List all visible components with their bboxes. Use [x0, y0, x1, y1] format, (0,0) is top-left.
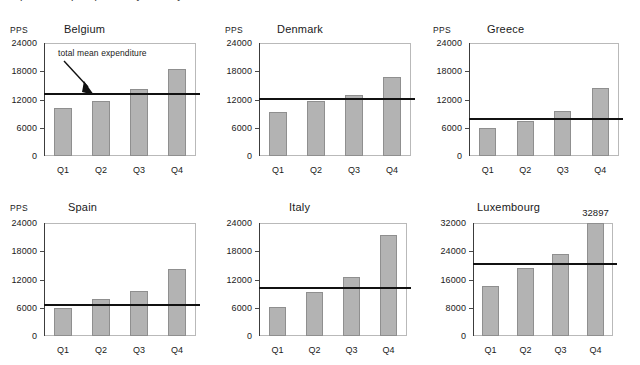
x-axis-tick-label: Q3	[345, 345, 357, 355]
y-axis-tick	[255, 280, 259, 281]
x-axis-tick-label: Q4	[589, 345, 601, 355]
x-axis-tick-label: Q2	[519, 165, 531, 175]
y-axis-tick	[255, 308, 259, 309]
bar	[168, 269, 185, 336]
y-axis-line	[473, 223, 474, 336]
bar	[479, 128, 496, 156]
y-axis-tick	[40, 280, 44, 281]
x-axis-tick-label: Q1	[272, 165, 284, 175]
y-axis-tick	[465, 100, 469, 101]
mean-expenditure-line	[259, 287, 411, 289]
y-axis-tick-label: 24000	[436, 38, 462, 48]
x-axis-tick-label: Q4	[382, 345, 394, 355]
y-axis-tick	[40, 128, 44, 129]
y-axis-tick-label: 0	[247, 331, 252, 341]
y-axis-tick-label: 32000	[440, 218, 466, 228]
y-axis-tick-label: 24000	[226, 38, 252, 48]
panel-belgium: PPSBelgium06000120001800024000Q1Q2Q3Q4to…	[0, 9, 215, 185]
y-axis-unit-label: PPS	[10, 203, 28, 213]
bar-data-label: 32897	[582, 207, 608, 218]
mean-expenditure-line	[259, 98, 415, 100]
bar	[482, 286, 498, 336]
bar	[307, 101, 324, 156]
bar	[54, 108, 71, 156]
bar	[269, 307, 286, 336]
y-axis-tick-label: 6000	[232, 303, 252, 313]
x-axis-tick-label: Q4	[171, 345, 183, 355]
mean-expenditure-line	[473, 263, 617, 265]
bar	[383, 77, 400, 156]
bar	[380, 235, 397, 336]
y-axis-tick-label: 16000	[440, 275, 466, 285]
y-axis-tick	[255, 71, 259, 72]
mean-expenditure-line	[469, 118, 623, 120]
y-axis-tick	[255, 100, 259, 101]
mean-line-annotation-arrow	[62, 59, 122, 103]
y-axis-tick-label: 18000	[11, 66, 37, 76]
y-axis-tick	[469, 280, 473, 281]
panel-title: Spain	[68, 201, 97, 213]
panel-title: Denmark	[277, 23, 323, 35]
bar	[168, 69, 185, 156]
bar	[306, 292, 323, 336]
y-axis-tick-label: 18000	[226, 246, 252, 256]
y-axis-tick-label: 0	[457, 151, 462, 161]
y-axis-unit-label: PPS	[10, 25, 28, 35]
x-axis-tick-label: Q2	[308, 345, 320, 355]
bar	[517, 268, 533, 337]
panel-spain: PPSSpain06000120001800024000Q1Q2Q3Q4	[0, 185, 215, 365]
y-axis-tick	[469, 308, 473, 309]
small-multiples-grid: PPSBelgium06000120001800024000Q1Q2Q3Q4to…	[0, 9, 640, 365]
bar	[54, 308, 71, 336]
y-axis-tick-label: 0	[32, 151, 37, 161]
y-axis-tick	[255, 251, 259, 252]
y-axis-line	[44, 43, 45, 156]
plot-area: 06000120001800024000Q1Q2Q3Q4total mean e…	[44, 43, 196, 156]
y-axis-line	[259, 223, 260, 336]
plot-area: 06000120001800024000Q1Q2Q3Q4	[259, 223, 407, 336]
y-axis-tick-label: 12000	[226, 275, 252, 285]
panel-greece: PPSGreece06000120001800024000Q1Q2Q3Q4	[425, 9, 640, 185]
cropped-caption: expenditure per quarter by country	[0, 0, 640, 9]
bar	[130, 291, 147, 336]
y-axis-tick	[40, 71, 44, 72]
x-axis-tick-label: Q1	[482, 165, 494, 175]
y-axis-tick	[469, 251, 473, 252]
y-axis-tick-label: 6000	[17, 303, 37, 313]
bar	[269, 112, 286, 156]
y-axis-tick	[40, 100, 44, 101]
x-axis-tick-label: Q2	[95, 165, 107, 175]
y-axis-tick	[40, 251, 44, 252]
y-axis-tick-label: 0	[32, 331, 37, 341]
panel-luxembourg: Luxembourg08000160002400032000Q1Q2Q3Q432…	[425, 185, 640, 365]
bar	[130, 89, 147, 156]
x-axis-tick-label: Q3	[133, 165, 145, 175]
y-axis-tick-label: 8000	[446, 303, 466, 313]
y-axis-tick-label: 12000	[11, 95, 37, 105]
y-axis-tick-label: 18000	[226, 66, 252, 76]
plot-area: 06000120001800024000Q1Q2Q3Q4	[44, 223, 196, 336]
x-axis-tick-label: Q1	[57, 345, 69, 355]
y-axis-tick-label: 18000	[436, 66, 462, 76]
y-axis-tick-label: 12000	[436, 95, 462, 105]
x-axis-tick-label: Q3	[554, 345, 566, 355]
x-axis-tick-label: Q4	[594, 165, 606, 175]
panel-title: Greece	[487, 23, 524, 35]
y-axis-tick-label: 24000	[226, 218, 252, 228]
bar	[92, 101, 109, 156]
plot-area: 06000120001800024000Q1Q2Q3Q4	[259, 43, 411, 156]
y-axis-tick-label: 24000	[11, 38, 37, 48]
bar	[592, 88, 609, 156]
panel-title: Italy	[289, 201, 310, 213]
y-axis-tick-label: 24000	[11, 218, 37, 228]
x-axis-tick-label: Q3	[133, 345, 145, 355]
y-axis-tick-label: 18000	[11, 246, 37, 256]
y-axis-tick-label: 0	[247, 151, 252, 161]
panel-denmark: PPSDenmark06000120001800024000Q1Q2Q3Q4	[215, 9, 425, 185]
y-axis-tick	[255, 128, 259, 129]
y-axis-tick-label: 6000	[232, 123, 252, 133]
y-axis-unit-label: PPS	[433, 25, 451, 35]
panel-italy: Italy06000120001800024000Q1Q2Q3Q4	[215, 185, 425, 365]
x-axis-tick-label: Q1	[484, 345, 496, 355]
bar	[587, 223, 603, 336]
